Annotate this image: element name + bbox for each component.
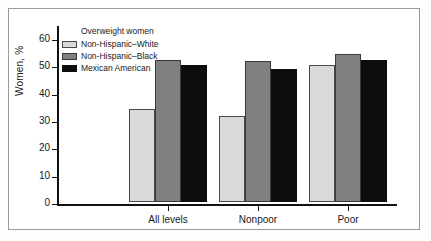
legend-label: Mexican American xyxy=(81,63,150,74)
y-axis-line xyxy=(57,26,59,204)
bar xyxy=(271,69,297,202)
bar xyxy=(219,116,245,202)
x-axis-line xyxy=(57,204,397,206)
legend-item: Non-Hispanic–White xyxy=(62,39,182,50)
legend-label: Non-Hispanic–White xyxy=(81,39,158,50)
legend-label: Non-Hispanic–Black xyxy=(81,51,158,62)
y-tick-label: 30 xyxy=(39,115,50,127)
legend-item: Non-Hispanic–Black xyxy=(62,51,182,62)
y-tick-label: 60 xyxy=(39,33,50,45)
legend-swatch xyxy=(62,65,77,72)
x-tick-mark xyxy=(168,206,169,211)
legend-title: Overweight women xyxy=(81,26,182,37)
y-tick-mark xyxy=(52,122,57,123)
y-tick-mark xyxy=(52,95,57,96)
y-tick-mark xyxy=(52,40,57,41)
bar-group xyxy=(309,24,387,202)
y-tick-mark xyxy=(52,177,57,178)
x-tick-mark xyxy=(258,206,259,211)
y-tick-label: 20 xyxy=(39,142,50,154)
bar-group xyxy=(219,24,297,202)
x-tick-label: Nonpoor xyxy=(239,214,277,225)
y-tick-label: 40 xyxy=(39,88,50,100)
y-axis-title: Women, % xyxy=(14,46,25,96)
legend-swatch xyxy=(62,53,77,60)
x-tick-label: Poor xyxy=(337,214,358,225)
bar xyxy=(155,60,181,202)
bar xyxy=(129,109,155,202)
bar xyxy=(309,65,335,202)
legend-rows: Non-Hispanic–WhiteNon-Hispanic–BlackMexi… xyxy=(62,39,182,74)
bar xyxy=(335,54,361,202)
legend-item: Mexican American xyxy=(62,63,182,74)
bar xyxy=(181,65,207,202)
y-tick-mark xyxy=(52,149,57,150)
chart-figure: Women, % 0102030405060 All levelsNonpoor… xyxy=(0,0,431,241)
y-tick-label: 0 xyxy=(44,197,50,209)
y-tick-label: 10 xyxy=(39,170,50,182)
y-tick-mark xyxy=(52,204,57,205)
x-tick-label: All levels xyxy=(148,214,187,225)
legend-swatch xyxy=(62,41,77,48)
bar xyxy=(361,60,387,202)
x-tick-mark xyxy=(348,206,349,211)
legend: Overweight women Non-Hispanic–WhiteNon-H… xyxy=(62,26,182,75)
bar xyxy=(245,61,271,202)
y-tick-mark xyxy=(52,67,57,68)
y-tick-label: 50 xyxy=(39,60,50,72)
